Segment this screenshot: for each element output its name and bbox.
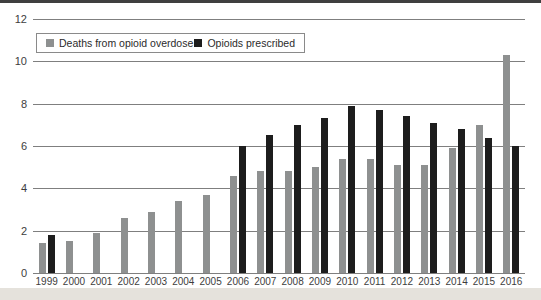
x-tick-label-2010: 2010 [334, 276, 361, 287]
x-tick-label-2013: 2013 [416, 276, 443, 287]
bar-group-2004 [170, 19, 197, 273]
bar-group-2014 [443, 19, 470, 273]
x-tick-label-2015: 2015 [470, 276, 497, 287]
bar-group-2012 [388, 19, 415, 273]
bar-2013-opioids-prescribed [430, 123, 437, 273]
bar-2002-deaths-from-opioid-overdose [121, 218, 128, 273]
legend-label: Deaths from opioid overdose [59, 37, 193, 49]
y-tick-label-10: 10 [0, 55, 27, 67]
bar-2014-deaths-from-opioid-overdose [449, 148, 456, 273]
bar-2004-deaths-from-opioid-overdose [175, 201, 182, 273]
bar-2016-deaths-from-opioid-overdose [503, 55, 510, 273]
legend-swatch-icon [46, 39, 54, 47]
bar-group-2008 [279, 19, 306, 273]
bar-2011-opioids-prescribed [376, 110, 383, 273]
y-tick-label-8: 8 [0, 98, 27, 110]
bar-2010-opioids-prescribed [348, 106, 355, 273]
bar-2008-deaths-from-opioid-overdose [285, 171, 292, 273]
bar-group-2002 [115, 19, 142, 273]
x-tick-label-2016: 2016 [498, 276, 525, 287]
bar-2006-deaths-from-opioid-overdose [230, 176, 237, 273]
x-axis-labels: 1999200020012002200320042005200620072008… [33, 276, 525, 287]
top-divider-bar [0, 0, 541, 3]
bar-group-2011 [361, 19, 388, 273]
x-tick-label-1999: 1999 [33, 276, 60, 287]
bar-2009-deaths-from-opioid-overdose [312, 167, 319, 273]
y-tick-label-12: 12 [0, 13, 27, 25]
bar-group-1999 [33, 19, 60, 273]
plot-area [33, 19, 525, 273]
bar-group-2016 [498, 19, 525, 273]
x-tick-label-2011: 2011 [361, 276, 388, 287]
x-tick-label-2004: 2004 [170, 276, 197, 287]
bar-2007-opioids-prescribed [266, 135, 273, 273]
bar-group-2013 [416, 19, 443, 273]
y-tick-label-6: 6 [0, 140, 27, 152]
legend-label: Opioids prescribed [207, 37, 295, 49]
x-tick-label-2008: 2008 [279, 276, 306, 287]
bar-2011-deaths-from-opioid-overdose [367, 159, 374, 273]
bar-group-2005 [197, 19, 224, 273]
x-tick-label-2006: 2006 [224, 276, 251, 287]
legend-item-opioids-prescribed: Opioids prescribed [194, 37, 295, 49]
bar-group-2010 [334, 19, 361, 273]
x-tick-label-2002: 2002 [115, 276, 142, 287]
opioid-chart: 121086420 Deaths from opioid overdoseOpi… [0, 0, 541, 300]
bar-group-2015 [470, 19, 497, 273]
x-tick-label-2005: 2005 [197, 276, 224, 287]
bar-2008-opioids-prescribed [294, 125, 301, 273]
bar-group-2007 [252, 19, 279, 273]
legend: Deaths from opioid overdoseOpioids presc… [36, 33, 305, 53]
y-tick-label-4: 4 [0, 182, 27, 194]
bar-2010-deaths-from-opioid-overdose [339, 159, 346, 273]
y-tick-label-0: 0 [0, 267, 27, 279]
bar-2007-deaths-from-opioid-overdose [257, 171, 264, 273]
bar-group-2006 [224, 19, 251, 273]
bar-group-2001 [88, 19, 115, 273]
bar-2013-deaths-from-opioid-overdose [421, 165, 428, 273]
x-tick-label-2007: 2007 [252, 276, 279, 287]
bar-2009-opioids-prescribed [321, 118, 328, 273]
bar-group-2009 [306, 19, 333, 273]
x-tick-label-2003: 2003 [142, 276, 169, 287]
bar-1999-opioids-prescribed [48, 235, 55, 273]
bar-2012-deaths-from-opioid-overdose [394, 165, 401, 273]
bar-2015-opioids-prescribed [485, 138, 492, 273]
bar-group-2000 [60, 19, 87, 273]
bar-1999-deaths-from-opioid-overdose [39, 243, 46, 273]
x-tick-label-2009: 2009 [306, 276, 333, 287]
bar-2003-deaths-from-opioid-overdose [148, 212, 155, 273]
x-tick-label-2000: 2000 [60, 276, 87, 287]
legend-item-deaths-from-opioid-overdose: Deaths from opioid overdose [46, 37, 193, 49]
bar-groups [33, 19, 525, 273]
footer-strip [0, 288, 541, 300]
x-tick-label-2001: 2001 [88, 276, 115, 287]
bar-2012-opioids-prescribed [403, 116, 410, 273]
x-tick-label-2014: 2014 [443, 276, 470, 287]
bar-2015-deaths-from-opioid-overdose [476, 125, 483, 273]
bar-group-2003 [142, 19, 169, 273]
bar-2000-deaths-from-opioid-overdose [66, 241, 73, 273]
bar-2001-deaths-from-opioid-overdose [93, 233, 100, 273]
bar-2016-opioids-prescribed [512, 146, 519, 273]
legend-swatch-icon [194, 39, 202, 47]
bar-2006-opioids-prescribed [239, 146, 246, 273]
y-tick-label-2: 2 [0, 225, 27, 237]
x-tick-label-2012: 2012 [388, 276, 415, 287]
bar-2005-deaths-from-opioid-overdose [203, 195, 210, 273]
bar-2014-opioids-prescribed [458, 129, 465, 273]
gridline-y-0 [33, 273, 525, 274]
